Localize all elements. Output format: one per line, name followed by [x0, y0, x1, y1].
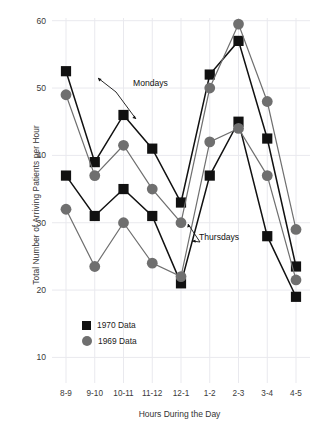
data-point-circle[interactable]: [89, 261, 100, 272]
data-point-circle[interactable]: [89, 170, 100, 181]
legend-item-1969[interactable]: 1969 Data: [82, 333, 137, 349]
data-point-square[interactable]: [147, 144, 157, 154]
data-point-circle[interactable]: [233, 19, 244, 30]
data-point-circle[interactable]: [61, 204, 72, 215]
y-tick-20: 20: [22, 285, 46, 295]
data-point-circle[interactable]: [118, 217, 129, 228]
x-tick-9-10: 9-10: [87, 389, 103, 398]
data-point-square[interactable]: [61, 66, 71, 76]
data-point-square[interactable]: [262, 133, 272, 143]
x-tick-4-5: 4-5: [290, 389, 302, 398]
data-point-circle[interactable]: [262, 170, 273, 181]
x-tick-11-12: 11-12: [142, 389, 162, 398]
x-tick-12-1: 12-1: [173, 389, 189, 398]
data-point-square[interactable]: [61, 170, 71, 180]
legend-label-1970: 1970 Data: [97, 320, 136, 330]
data-point-circle[interactable]: [61, 89, 72, 100]
data-point-circle[interactable]: [176, 271, 187, 282]
data-point-square[interactable]: [233, 36, 243, 46]
annotation-thursdays: Thursdays: [199, 232, 239, 242]
data-point-circle[interactable]: [118, 140, 129, 151]
y-tick-60: 60: [22, 16, 46, 26]
x-tick-2-3: 2-3: [233, 389, 245, 398]
x-tick-3-4: 3-4: [261, 389, 273, 398]
data-point-square[interactable]: [118, 110, 128, 120]
data-point-circle[interactable]: [147, 258, 158, 269]
chart-root: Total Number of Arriving Patients per Ho…: [0, 0, 315, 431]
data-point-circle[interactable]: [291, 224, 302, 235]
square-marker-icon: [82, 321, 91, 330]
data-point-square[interactable]: [118, 184, 128, 194]
data-point-circle[interactable]: [204, 83, 215, 94]
y-tick-30: 30: [22, 218, 46, 228]
y-tick-10: 10: [22, 352, 46, 362]
x-tick-8-9: 8-9: [60, 389, 72, 398]
data-point-circle[interactable]: [147, 184, 158, 195]
y-tick-40: 40: [22, 150, 46, 160]
data-point-square[interactable]: [205, 69, 215, 79]
data-point-square[interactable]: [90, 211, 100, 221]
data-point-square[interactable]: [205, 170, 215, 180]
data-point-circle[interactable]: [204, 137, 215, 148]
y-axis-tick-labels: 605040302010: [22, 0, 46, 431]
legend-item-1970[interactable]: 1970 Data: [82, 317, 137, 333]
annotation-mondays: Mondays: [133, 78, 168, 88]
y-tick-50: 50: [22, 83, 46, 93]
data-point-circle[interactable]: [291, 275, 302, 286]
data-point-square[interactable]: [291, 292, 301, 302]
legend-label-1969: 1969 Data: [98, 336, 137, 346]
circle-marker-icon: [82, 336, 92, 346]
chart-legend: 1970 Data 1969 Data: [82, 317, 137, 349]
data-point-circle[interactable]: [262, 96, 273, 107]
x-tick-10-11: 10-11: [113, 389, 133, 398]
x-axis-title: Hours During the Day: [48, 409, 311, 419]
data-point-circle[interactable]: [233, 123, 244, 134]
data-point-square[interactable]: [147, 211, 157, 221]
data-point-circle[interactable]: [176, 217, 187, 228]
x-tick-1-2: 1-2: [204, 389, 216, 398]
data-point-square[interactable]: [262, 231, 272, 241]
